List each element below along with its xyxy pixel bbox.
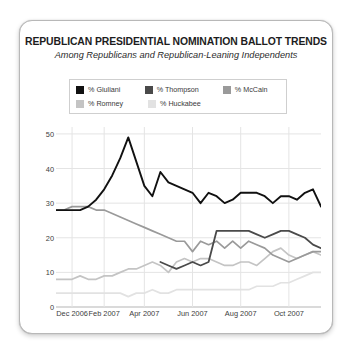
x-axis-tick-label: Feb 2007 bbox=[89, 309, 120, 318]
line-chart-svg bbox=[56, 127, 321, 309]
legend-item-romney[interactable]: % Romney bbox=[76, 99, 148, 108]
x-axis-tick-label: Aug 2007 bbox=[225, 309, 257, 318]
page-title: REPUBLICAN PRESIDENTIAL NOMINATION BALLO… bbox=[20, 36, 332, 47]
x-axis: Dec 2006Feb 2007Apr 2007Jun 2007Aug 2007… bbox=[56, 309, 334, 323]
x-axis-tick-label: Jun 2007 bbox=[177, 309, 207, 318]
legend-swatch-icon bbox=[76, 100, 84, 108]
x-axis-tick-label: Dec 2006 bbox=[56, 309, 88, 318]
legend-swatch-icon bbox=[223, 86, 231, 94]
y-axis-tick-label: 50 bbox=[40, 129, 54, 138]
legend-item-huckabee[interactable]: % Huckabee bbox=[148, 99, 230, 108]
x-axis-tick-label: Apr 2007 bbox=[129, 309, 159, 318]
legend-swatch-icon bbox=[148, 100, 156, 108]
x-axis-tick-label: Oct 2007 bbox=[274, 309, 304, 318]
y-axis-tick-label: 0 bbox=[40, 303, 54, 312]
series-line-giuliani bbox=[56, 137, 321, 210]
y-axis-tick-label: 10 bbox=[40, 268, 54, 277]
legend-row: % Giuliani% Thompson% McCain bbox=[76, 85, 280, 94]
legend-item-thompson[interactable]: % Thompson bbox=[145, 85, 223, 94]
series-line-mccain bbox=[56, 207, 321, 262]
legend-swatch-icon bbox=[145, 86, 153, 94]
chart-legend: % Giuliani% Thompson% McCain% Romney% Hu… bbox=[69, 79, 287, 114]
chart-plot-area bbox=[56, 127, 321, 307]
legend-item-giuliani[interactable]: % Giuliani bbox=[76, 85, 145, 94]
legend-row: % Romney% Huckabee bbox=[76, 99, 280, 108]
legend-label: % Huckabee bbox=[160, 99, 201, 108]
legend-label: % McCain bbox=[235, 85, 268, 94]
y-axis: 01020304050 bbox=[38, 127, 54, 307]
y-axis-tick-label: 30 bbox=[40, 199, 54, 208]
chart-card: REPUBLICAN PRESIDENTIAL NOMINATION BALLO… bbox=[19, 20, 333, 334]
page-subtitle: Among Republicans and Republican-Leaning… bbox=[20, 50, 332, 60]
y-axis-tick-label: 20 bbox=[40, 233, 54, 242]
y-axis-tick-label: 40 bbox=[40, 164, 54, 173]
legend-item-mccain[interactable]: % McCain bbox=[223, 85, 280, 94]
legend-label: % Giuliani bbox=[88, 85, 120, 94]
series-line-huckabee bbox=[56, 272, 321, 296]
legend-swatch-icon bbox=[76, 86, 84, 94]
legend-label: % Thompson bbox=[157, 85, 199, 94]
legend-label: % Romney bbox=[88, 99, 123, 108]
